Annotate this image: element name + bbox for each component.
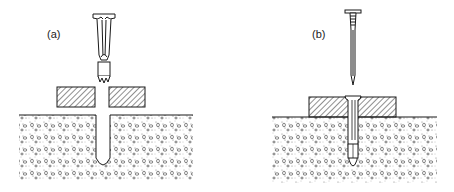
nail-b <box>345 10 361 85</box>
fixture-block-left <box>57 87 95 107</box>
plug-anchor-a <box>93 14 115 83</box>
anchor-diagram <box>0 0 454 192</box>
panel-a <box>19 14 193 180</box>
concrete-base-a <box>19 115 193 180</box>
panel-b <box>272 10 437 183</box>
fixture-block-right <box>109 87 145 107</box>
